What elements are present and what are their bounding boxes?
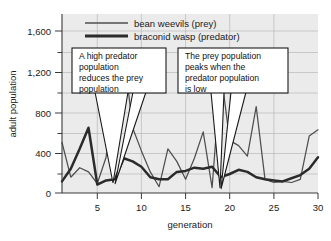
callout-prey-line-4: is low xyxy=(185,84,207,94)
legend-label-prey: bean weevils (prey) xyxy=(134,18,216,29)
x-axis-ticks xyxy=(97,193,318,199)
legend-label-predator: braconid wasp (predator) xyxy=(134,31,240,42)
population-chart-figure: 0 400 800 1,200 1,600 5 10 15 20 25 30 g… xyxy=(0,0,331,241)
y-tick-label-1600: 1,600 xyxy=(27,26,51,37)
callout-prey-line-2: peaks when the xyxy=(185,62,245,72)
callout-predator-line-3: reduces the prey xyxy=(79,73,144,83)
x-tick-label-10: 10 xyxy=(136,202,147,213)
x-tick-label-20: 20 xyxy=(224,202,235,213)
chart-svg: 0 400 800 1,200 1,600 5 10 15 20 25 30 g… xyxy=(0,0,331,241)
x-tick-label-5: 5 xyxy=(95,202,100,213)
x-tick-label-30: 30 xyxy=(313,202,324,213)
callout-predator-line-1: A high predator xyxy=(79,51,137,61)
x-axis-title: generation xyxy=(168,219,213,230)
y-axis-title: adult population xyxy=(7,70,18,137)
y-tick-label-800: 800 xyxy=(35,108,51,119)
callout-predator-line-4: population xyxy=(79,84,119,94)
callout-predator-line-2: population xyxy=(79,62,119,72)
y-tick-label-1200: 1,200 xyxy=(27,67,51,78)
y-tick-label-400: 400 xyxy=(35,148,51,159)
x-tick-label-25: 25 xyxy=(269,202,280,213)
callout-prey-line-1: The prey population xyxy=(185,51,261,61)
y-tick-label-0: 0 xyxy=(46,188,51,199)
x-tick-label-15: 15 xyxy=(180,202,191,213)
callout-prey-line-3: predator population xyxy=(185,73,259,83)
y-axis-ticks xyxy=(55,31,62,193)
